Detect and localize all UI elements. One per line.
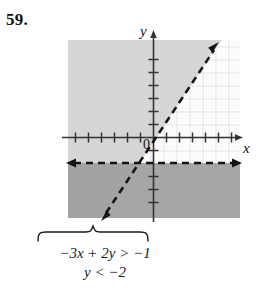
brace-annotation [38, 226, 148, 241]
origin-label: 0 [143, 137, 150, 152]
caption-block: −3x + 2y > −1 y < −2 [0, 244, 210, 282]
y-axis-arrow [150, 30, 157, 38]
caption-inequality-1: −3x + 2y > −1 [59, 245, 150, 261]
caption-inequality-2: y < −2 [0, 263, 210, 282]
x-axis-label: x [242, 140, 250, 156]
coordinate-plane-figure: y x 0 −3x + 2y > −1 y < −2 [0, 0, 272, 299]
figure-page: 59. [0, 0, 272, 299]
y-axis-label: y [138, 23, 147, 39]
